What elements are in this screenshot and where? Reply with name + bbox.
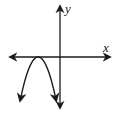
graph: x y [0, 0, 114, 114]
y-axis-label: y [63, 1, 71, 16]
x-axis-label: x [102, 40, 109, 55]
parabola-curve [20, 57, 56, 101]
